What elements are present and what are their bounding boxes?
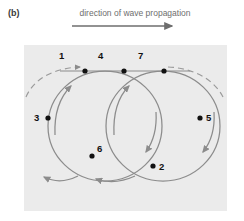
orbit-diagram <box>24 45 227 211</box>
point-5 <box>197 115 202 120</box>
point-label-5: 5 <box>206 113 211 123</box>
point-4 <box>121 68 126 73</box>
point-6 <box>89 153 94 158</box>
point-label-7: 7 <box>138 51 143 61</box>
point-7 <box>161 68 166 73</box>
wave-orbit-figure: (b) direction of wave propagation <box>0 0 244 221</box>
point-1 <box>82 68 87 73</box>
point-label-2: 2 <box>159 162 164 172</box>
point-3 <box>45 115 50 120</box>
point-label-6: 6 <box>97 144 102 154</box>
orbit-direction-arrows <box>44 86 214 181</box>
propagation-arrow-icon <box>0 0 244 45</box>
plot-panel <box>24 45 227 211</box>
left-orbit <box>48 71 162 181</box>
point-label-3: 3 <box>34 113 39 123</box>
orbit-paths <box>48 71 220 181</box>
point-2 <box>150 163 155 168</box>
point-label-1: 1 <box>59 51 64 61</box>
point-label-4: 4 <box>98 51 103 61</box>
